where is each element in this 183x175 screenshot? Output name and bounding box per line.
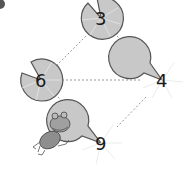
lily-pad-4: 4	[109, 37, 183, 98]
edge-4-9	[117, 97, 146, 127]
lily-pad-3: 3	[81, 0, 123, 39]
edge-3-6	[57, 36, 86, 65]
label-6: 6	[35, 70, 46, 91]
lily-pad-6: 6	[21, 59, 63, 101]
label-9: 9	[95, 133, 106, 154]
label-4: 4	[156, 70, 167, 91]
lily-pad-diagram: 3 6 4 9	[0, 0, 183, 175]
label-3: 3	[95, 8, 106, 29]
corner-mark	[0, 0, 5, 9]
